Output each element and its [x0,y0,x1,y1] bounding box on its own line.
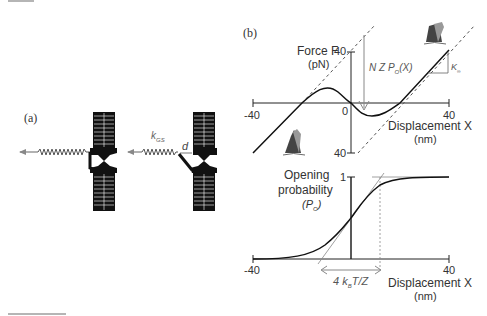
transition-width-label: 4 kBT/Z [333,275,368,289]
force-origin: 0 [342,105,348,117]
gating-force-label: N Z PO(X) [369,62,413,75]
panel-a-label: (a) [24,111,37,126]
force-ytick-top: 40 [334,45,346,57]
panel-b-label: (b) [243,26,257,41]
force-xlabel-unit: (nm) [414,133,437,145]
force-xlabel: Displacement X [388,119,472,133]
hair-bundle-open [127,112,217,211]
probability-xtick-right: 40 [443,264,455,276]
top-rule [8,0,34,2]
probability-xtick-left: -40 [244,264,260,276]
force-ylabel-unit: (pN) [308,58,329,70]
gate-swing-label: d [182,140,188,152]
bottom-rule [8,313,66,315]
bundle-icon-closed [283,129,305,155]
hair-bundle-closed [19,112,117,211]
bundle-icon-open [424,22,446,44]
probability-xlabel: Displacement X [388,276,472,290]
force-ylabel: Force F [297,44,338,58]
stiffness-label: K∞ [451,62,461,74]
spring-constant-label: kGS [151,130,165,143]
probability-ylabel-1: Opening [284,168,329,182]
force-ytick-bottom: 40 [334,147,346,159]
force-xtick-left: -40 [244,109,260,121]
probability-ylabel-3: (PO) [302,198,321,212]
probability-ylabel-2: probability [278,183,333,197]
probability-xlabel-unit: (nm) [414,290,437,302]
force-plot [253,22,475,155]
probability-ytick: 1 [340,171,346,183]
